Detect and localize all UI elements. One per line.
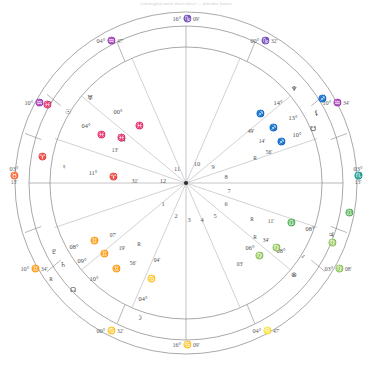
- cusp11-sign-icon: ♒: [107, 37, 116, 45]
- center-hub: [184, 181, 188, 185]
- cusp-label-6: 03° ♍ 08': [324, 266, 351, 274]
- planet-south-node-sign-icon: ♐: [277, 139, 286, 146]
- planet-jupiter-icon[interactable]: ♃: [328, 232, 334, 239]
- asc-minute: 13': [11, 179, 18, 185]
- planet-neptune-degree: 14°: [274, 100, 283, 106]
- sign-marker-aries-icon: ♈: [38, 154, 47, 161]
- house-number-4: 4: [200, 216, 203, 223]
- planet-mercury-degree: 06°: [246, 245, 255, 251]
- sign-marker-libra-icon: ♎: [345, 210, 354, 217]
- sign-marker-sag-icon: ♐: [318, 96, 327, 103]
- wheel-svg: [0, 8, 372, 370]
- planet-jupiter-sign-icon: ♎: [287, 220, 296, 227]
- planet-mars-sign-icon: ♍: [255, 253, 264, 260]
- cusp-label-asc: 03° ♉ 13': [10, 166, 19, 186]
- planet-south-node-icon[interactable]: ☋: [310, 126, 316, 133]
- planet-fortune-icon[interactable]: ⊗: [291, 272, 297, 279]
- cusp-label-2: 00° ♋ 32': [96, 328, 123, 336]
- planet-fortune-retrograde: R: [253, 235, 257, 240]
- planet-neptune-sign-icon: ♐: [256, 111, 265, 118]
- planet-north-node-icon[interactable]: ☊: [70, 287, 76, 294]
- planet-uranus-sign-icon: ♓: [135, 123, 144, 130]
- ic-degree: 16°: [172, 341, 181, 348]
- planet-saturn-icon[interactable]: ♄: [60, 262, 66, 269]
- house-number-5: 5: [213, 212, 216, 219]
- planet-pluto-minute: 07': [110, 233, 117, 239]
- cusp5-degree: 04°: [252, 327, 261, 334]
- house-number-12: 12: [160, 177, 166, 184]
- planet-saturn-sign-icon: ♊: [100, 251, 109, 258]
- planet-venus-sign-icon: ♈: [109, 174, 118, 181]
- cusp5-sign-icon: ♌: [263, 327, 272, 335]
- planet-fortune-sign-icon: ♍: [272, 245, 281, 252]
- cusp-label-dsc: 03° ♏ 13': [354, 166, 363, 186]
- planet-pluto-icon[interactable]: ♇: [51, 249, 57, 256]
- cusp-label-ic: 16° ♋ 09': [172, 342, 199, 350]
- planet-moon-icon[interactable]: ☽: [136, 315, 142, 322]
- cusp-label-5: 04° ♌ 47': [252, 328, 279, 336]
- house-number-6: 6: [224, 200, 227, 207]
- planet-venus-minute: 31': [132, 179, 139, 185]
- planet-uranus-degree: 00°: [114, 109, 123, 115]
- house-number-11: 11: [174, 165, 180, 172]
- dsc-minute: 13': [355, 179, 362, 185]
- sign-marker-virgo-icon: ♍: [328, 240, 337, 247]
- planet-uranus-minute2: 13': [112, 148, 119, 154]
- planet-saturn-minute: 19': [119, 246, 126, 252]
- sign-marker-pisces-icon: ♓: [43, 102, 52, 109]
- mc-degree: 16°: [172, 15, 181, 22]
- planet-pluto-sign-icon: ♊: [90, 238, 99, 245]
- planet-south-node-retrograde: R: [253, 156, 257, 161]
- planet-pluto-degree: 08°: [70, 244, 79, 250]
- cusp-ur-minute: 34': [343, 100, 350, 106]
- cusp12-minute: 32': [271, 38, 278, 44]
- planet-jupiter-degree: 08°: [306, 226, 315, 232]
- cusp11-degree: 04°: [96, 37, 105, 44]
- cusp2-minute: 32': [117, 328, 124, 334]
- planet-sun-degree: 04°: [82, 123, 91, 129]
- planet-mars-minute: 03': [237, 262, 244, 268]
- planet-uranus-icon[interactable]: ♅: [87, 95, 93, 102]
- cusp6-minute: 08': [345, 266, 352, 272]
- planet-mars-icon[interactable]: ♂: [300, 254, 305, 261]
- house-number-10: 10: [194, 160, 200, 167]
- planet-moon-sign-icon: ♋: [147, 276, 156, 283]
- mc-sign-icon: ♑: [183, 15, 192, 23]
- house-number-9: 9: [211, 163, 214, 170]
- planet-moon-minute: 04': [154, 258, 161, 264]
- planet-lilith-icon[interactable]: ⚸: [314, 110, 319, 117]
- cusp-ll-sign-icon: ♊: [31, 265, 40, 273]
- mc-minute: 09': [193, 16, 200, 22]
- planet-neptune-icon[interactable]: ♆: [291, 86, 297, 93]
- cusp-label-lower-left: 10° ♊ 34': [20, 266, 47, 274]
- planet-south-node-minute: 56': [266, 150, 273, 156]
- planet-saturn-degree: 09°: [78, 258, 87, 264]
- house-number-3: 3: [187, 216, 190, 223]
- cusp-label-11: 04° ♒ 47': [96, 38, 123, 46]
- planet-north-node-degree: 10°: [90, 276, 99, 282]
- ic-sign-icon: ♋: [183, 341, 192, 349]
- cusp9-degree: 10°: [24, 99, 33, 106]
- cusp-label-mc: 16° ♑ 09': [172, 16, 199, 24]
- house-number-7: 7: [227, 187, 230, 194]
- house-number-2: 2: [174, 212, 177, 219]
- planet-north-node-minute: 56': [130, 261, 137, 267]
- planet-jupiter-minute: 11': [268, 219, 274, 225]
- cusp-label-12: 00° ♑ 32': [250, 38, 277, 46]
- chart-wheel[interactable]: 1 2 3 4 5 6 7 8 9 10 11 12 16° ♑ 09' 16°…: [0, 8, 372, 370]
- planet-venus-icon[interactable]: ♀: [61, 164, 66, 171]
- planet-north-node-sign-icon: ♊: [112, 266, 121, 273]
- planet-saturn-retrograde: R: [137, 242, 141, 247]
- cusp-ll-minute: 34': [41, 266, 48, 272]
- planet-neptune-minute: 49': [248, 129, 255, 135]
- cusp12-sign-icon: ♑: [261, 37, 270, 45]
- planet-venus-degree: 11°: [89, 170, 98, 176]
- planet-lilith-degree: 13°: [289, 115, 298, 121]
- planet-uranus-sign2-icon: ♓: [117, 135, 126, 142]
- ic-minute: 09': [193, 342, 200, 348]
- planet-sun-icon[interactable]: ☉: [65, 109, 71, 116]
- planet-lilith-minute: 14': [259, 139, 266, 145]
- planet-moon-degree: 04°: [139, 296, 148, 302]
- cusp6-sign-icon: ♍: [335, 265, 344, 273]
- planet-south-node-degree: 10°: [293, 132, 302, 138]
